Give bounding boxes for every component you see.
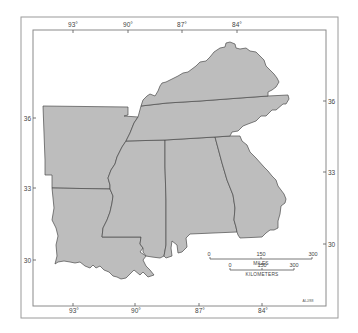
top-tick-label: 93° (68, 21, 78, 28)
left-tick-label: 36 (24, 115, 32, 122)
scale-km-0: 0 (228, 262, 231, 268)
right-tick-label: 30 (328, 241, 336, 248)
right-tick-label: 36 (328, 98, 336, 105)
scale-miles-300: 300 (308, 251, 317, 257)
top-tick-label: 84° (232, 21, 242, 28)
scale-miles-150: 150 (256, 251, 265, 257)
scale-km-caption: KILOMETERS (246, 272, 279, 277)
bottom-tick-label: 93° (69, 307, 79, 314)
left-latitude-axis: 36 33 30 (24, 115, 36, 264)
left-tick-label: 33 (24, 185, 32, 192)
top-tick-label: 87° (177, 21, 187, 28)
bottom-tick-label: 87° (195, 307, 205, 314)
right-latitude-axis: 36 33 30 (323, 98, 336, 248)
scale-bar: 0 150 300 MILES 0 150 300 KILOMETERS (207, 251, 317, 277)
scale-miles-0: 0 (207, 251, 210, 257)
map-credit: ALJ/88 (303, 299, 314, 303)
top-tick-label: 90° (123, 21, 133, 28)
state-kentucky (141, 42, 279, 106)
scale-km-150: 150 (257, 262, 266, 268)
top-longitude-axis: 93° 90° 87° 84° (68, 21, 242, 33)
bottom-tick-label: 84° (258, 307, 268, 314)
left-tick-label: 30 (24, 257, 32, 264)
right-tick-label: 33 (328, 169, 336, 176)
map-figure: 93° 90° 87° 84° 93° 90° 87° 84° 36 33 30… (0, 0, 358, 333)
scale-km-300: 300 (289, 262, 298, 268)
bottom-tick-label: 90° (131, 307, 141, 314)
states-layer (43, 42, 289, 279)
bottom-longitude-axis: 93° 90° 87° 84° (69, 303, 268, 314)
